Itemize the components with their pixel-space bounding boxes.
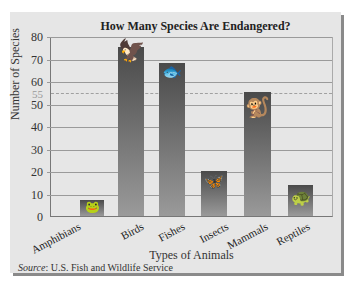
y-tick-40: 40 xyxy=(17,121,43,133)
eagle-icon: 🦅 xyxy=(118,39,145,63)
gridline-40 xyxy=(47,127,332,128)
frog-icon: 🐸 xyxy=(85,198,100,216)
source-note: Source: U.S. Fish and Wildlife Service xyxy=(18,262,173,273)
y-tick-70: 70 xyxy=(17,54,43,66)
y-tick-10: 10 xyxy=(17,189,43,201)
bar-amphibians: 🐸 xyxy=(80,200,104,216)
turtle-icon: 🐢 xyxy=(291,189,311,207)
y-tick-50: 50 xyxy=(17,99,43,111)
source-text: : U.S. Fish and Wildlife Service xyxy=(45,262,172,273)
gridline-80 xyxy=(47,37,332,38)
y-tick-80: 80 xyxy=(17,31,43,43)
gridline-50 xyxy=(47,105,332,106)
fish-icon: 🐟 xyxy=(162,63,182,81)
y-tick-60: 60 xyxy=(17,76,43,88)
lemur-icon: 🐒 xyxy=(245,96,270,118)
gridline-70 xyxy=(47,60,332,61)
y-tick-30: 30 xyxy=(17,144,43,156)
bar-mammals: 🐒 xyxy=(244,92,271,216)
y-tick-20: 20 xyxy=(17,166,43,178)
x-label-reptiles: Reptiles xyxy=(274,220,311,248)
y-tick-0: 0 xyxy=(17,211,43,223)
bar-birds: 🦅 xyxy=(118,47,144,216)
x-label-birds: Birds xyxy=(119,220,146,242)
bar-insects: 🦋 xyxy=(201,171,227,216)
bar-fishes: 🐟 xyxy=(159,63,185,216)
source-prefix: Source xyxy=(18,262,45,273)
gridline-30 xyxy=(47,150,332,151)
chart-frame: How Many Species Are Endangered? Number … xyxy=(10,12,341,273)
chart-title: How Many Species Are Endangered? xyxy=(10,19,341,34)
butterfly-icon: 🦋 xyxy=(204,173,224,191)
bar-reptiles: 🐢 xyxy=(288,185,313,216)
x-label-mammals: Mammals xyxy=(225,220,269,251)
plot-area: 80 70 60 55 50 40 30 20 10 0 🐸 🦅 🐟 🦋 🐒 🐢 xyxy=(50,37,333,217)
x-label-fishes: Fishes xyxy=(156,220,186,244)
reference-line-55 xyxy=(51,93,332,94)
gridline-20 xyxy=(47,172,332,173)
x-axis-title: Types of Animals xyxy=(50,248,333,263)
gridline-60 xyxy=(47,82,332,83)
